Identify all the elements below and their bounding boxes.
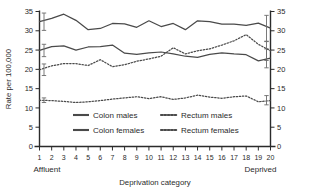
x-tick-label: 13 bbox=[181, 154, 189, 161]
y-tick-label-left: 10 bbox=[25, 104, 33, 113]
y-tick-label-left: 5 bbox=[29, 123, 33, 132]
y-tick-label-right: 35 bbox=[277, 7, 285, 16]
x-tick-label: 3 bbox=[62, 154, 66, 161]
x-tick-label: 14 bbox=[194, 154, 202, 161]
x-tick-label: 10 bbox=[145, 154, 153, 161]
y-tick-label-left: 30 bbox=[25, 26, 33, 35]
y-tick-label-right: 5 bbox=[277, 123, 281, 132]
x-tick-label: 17 bbox=[230, 154, 238, 161]
x-tick-label: 2 bbox=[50, 154, 54, 161]
y-tick-label-right: 15 bbox=[277, 84, 285, 93]
x-tick-label: 12 bbox=[169, 154, 177, 161]
deprivation-rate-line-chart: 0055101015152020252530303535Rate per 100… bbox=[0, 0, 309, 190]
series-line-colon-females bbox=[40, 45, 271, 61]
error-bar-colon-males-cat1 bbox=[42, 13, 46, 30]
x-tick-label: 16 bbox=[218, 154, 226, 161]
legend-label-rectum-females: Rectum females bbox=[181, 126, 239, 135]
x-axis-affluent-label: Affluent bbox=[34, 165, 62, 174]
error-bar-colon-females-cat1 bbox=[42, 44, 46, 56]
error-bar-rectum-males-cat1 bbox=[42, 64, 46, 76]
y-tick-label-left: 35 bbox=[25, 7, 33, 16]
x-tick-label: 18 bbox=[242, 154, 250, 161]
legend-label-colon-females: Colon females bbox=[93, 126, 144, 135]
x-axis-title: Deprivation category bbox=[119, 178, 191, 187]
x-tick-label: 1 bbox=[38, 154, 42, 161]
x-tick-label: 6 bbox=[98, 154, 102, 161]
legend-label-rectum-males: Rectum males bbox=[181, 111, 232, 120]
x-tick-label: 20 bbox=[267, 154, 275, 161]
y-tick-label-left: 0 bbox=[29, 142, 33, 151]
legend-label-colon-males: Colon males bbox=[93, 111, 137, 120]
x-tick-label: 7 bbox=[110, 154, 114, 161]
x-tick-label: 8 bbox=[123, 154, 127, 161]
y-axis-title: Rate per 100,000 bbox=[4, 48, 13, 109]
x-tick-label: 5 bbox=[86, 154, 90, 161]
x-tick-label: 9 bbox=[135, 154, 139, 161]
chart-container: 0055101015152020252530303535Rate per 100… bbox=[0, 0, 309, 190]
series-line-rectum-females bbox=[40, 95, 271, 102]
x-tick-label: 4 bbox=[74, 154, 78, 161]
x-axis-deprived-label: Deprived bbox=[244, 165, 276, 174]
y-tick-label-right: 20 bbox=[277, 65, 285, 74]
y-tick-label-left: 20 bbox=[25, 65, 33, 74]
error-bar-rectum-males-cat20 bbox=[264, 42, 268, 61]
y-tick-label-right: 10 bbox=[277, 104, 285, 113]
error-bar-rectum-females-cat20 bbox=[264, 96, 268, 105]
y-tick-label-right: 30 bbox=[277, 26, 285, 35]
y-tick-label-right: 0 bbox=[277, 142, 281, 151]
error-bar-colon-males-cat20 bbox=[264, 15, 268, 41]
y-tick-label-left: 25 bbox=[25, 46, 33, 55]
y-tick-label-right: 25 bbox=[277, 46, 285, 55]
x-tick-label: 11 bbox=[157, 154, 164, 161]
y-tick-label-left: 15 bbox=[25, 84, 33, 93]
x-tick-label: 15 bbox=[206, 154, 214, 161]
series-line-colon-males bbox=[40, 14, 271, 29]
x-tick-label: 19 bbox=[254, 154, 262, 161]
